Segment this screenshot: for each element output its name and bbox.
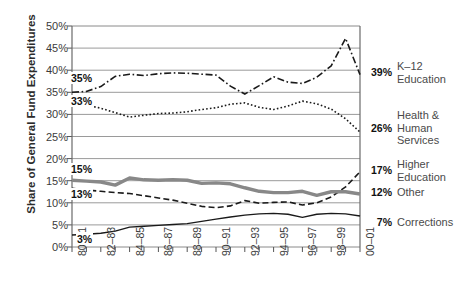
series-legend-label-corrections: Corrections — [397, 216, 453, 229]
x-axis-tick-label: 88–89 — [191, 227, 203, 256]
x-axis-tick-label: 98–99 — [335, 227, 347, 256]
chart-container: Share of General Fund Expenditures 0%5%1… — [0, 0, 465, 305]
series-line-higher-education — [72, 172, 360, 208]
series-legend-label-k-12-education: K–12 Education — [397, 60, 446, 85]
series-line-health-human-services — [72, 101, 360, 132]
series-end-value-corrections: 7% — [366, 216, 392, 228]
x-axis-tick-label: 82–83 — [105, 227, 117, 256]
x-axis-tick-label: 86–87 — [162, 227, 174, 256]
series-end-value-k-12-education: 39% — [366, 66, 392, 78]
plot-area — [0, 0, 465, 305]
series-line-k-12-education — [72, 38, 360, 94]
series-start-value-higher-education: 13% — [70, 188, 93, 200]
x-axis-tick-label: 00–01 — [364, 227, 376, 256]
series-legend-label-higher-education: Higher Education — [397, 158, 446, 183]
series-legend-label-health-human-services: Health & Human Services — [397, 109, 439, 147]
x-axis-tick-label: 94–95 — [278, 227, 290, 256]
x-axis-tick-label: 84–85 — [134, 227, 146, 256]
series-end-value-other: 12% — [366, 186, 392, 198]
x-axis-tick-label: 96–97 — [306, 227, 318, 256]
x-axis-tick-label: 90–91 — [220, 227, 232, 256]
series-end-value-higher-education: 17% — [366, 164, 392, 176]
series-start-value-corrections: 3% — [76, 233, 93, 245]
series-end-value-health-human-services: 26% — [366, 122, 392, 134]
x-axis-tick-label: 92–93 — [249, 227, 261, 256]
series-legend-label-other: Other — [397, 186, 425, 199]
series-start-value-other: 15% — [70, 163, 93, 175]
series-start-value-k-12-education: 35% — [70, 72, 93, 84]
series-start-value-health-human-services: 33% — [70, 95, 93, 107]
